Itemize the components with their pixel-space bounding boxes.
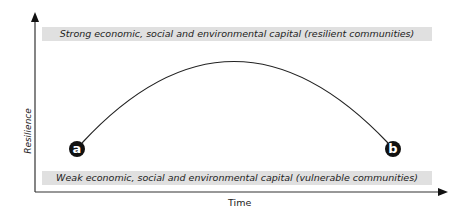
y-axis-label: Resilience: [23, 101, 33, 161]
x-axis-label: Time: [228, 197, 251, 208]
bottom-band-label: Weak economic, social and environmental …: [42, 171, 432, 185]
x-axis-arrow-icon: [438, 188, 448, 196]
point-a-marker: a: [69, 141, 85, 157]
y-axis-arrow-icon: [31, 12, 39, 22]
resilience-curve: [82, 62, 388, 144]
top-band-label: Strong economic, social and environmenta…: [42, 27, 432, 41]
point-b-marker: b: [385, 141, 401, 157]
